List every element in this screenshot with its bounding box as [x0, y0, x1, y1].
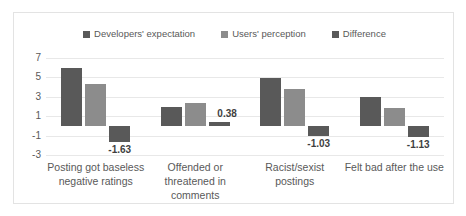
bar — [384, 108, 405, 125]
category-label: Offended or threatened in comments — [146, 161, 246, 203]
y-axis-tick-label: 1 — [35, 111, 41, 121]
bar-group: 0.38 — [146, 58, 246, 155]
legend-label: Users' perception — [232, 29, 306, 39]
category-label: Posting got baseless negative ratings — [46, 161, 146, 189]
legend-swatch-icon — [221, 31, 228, 38]
y-axis-tick-label: 5 — [35, 72, 41, 82]
plot-area: 7531-1-3-1.630.38-1.03-1.13 — [46, 58, 444, 155]
y-axis-tick-label: 7 — [35, 53, 41, 63]
category-label: Racist/sexist postings — [245, 161, 345, 189]
legend-item-developers-expectation: Developers' expectation — [83, 29, 195, 39]
legend-swatch-icon — [83, 31, 90, 38]
category-label: Felt bad after the use — [345, 161, 445, 175]
legend-swatch-icon — [332, 31, 339, 38]
bar-value-label: -1.63 — [108, 145, 131, 155]
legend-label: Developers' expectation — [94, 29, 195, 39]
bar — [360, 97, 381, 126]
gridline: -3 — [46, 155, 444, 156]
chart-frame: Developers' expectation Users' perceptio… — [13, 12, 454, 204]
bar — [408, 126, 429, 137]
bar-value-label: -1.13 — [407, 140, 430, 150]
bar-value-label: -1.03 — [307, 139, 330, 149]
bar-value-label: 0.38 — [217, 109, 236, 119]
bar — [209, 122, 230, 126]
y-axis-tick-label: 3 — [35, 92, 41, 102]
y-axis-tick-label: -1 — [32, 131, 41, 141]
y-axis-tick-label: -3 — [32, 150, 41, 160]
legend-item-users-perception: Users' perception — [221, 29, 306, 39]
legend-item-difference: Difference — [332, 29, 386, 39]
bar — [284, 89, 305, 126]
bar — [308, 126, 329, 136]
legend-label: Difference — [343, 29, 386, 39]
bar — [185, 103, 206, 126]
chart-legend: Developers' expectation Users' perceptio… — [14, 25, 455, 43]
bar-group: -1.03 — [245, 58, 345, 155]
bar-group: -1.13 — [345, 58, 445, 155]
bar — [109, 126, 130, 142]
category-axis: Posting got baseless negative ratingsOff… — [46, 161, 444, 213]
bar — [85, 84, 106, 126]
bar — [161, 107, 182, 126]
bar-group: -1.63 — [46, 58, 146, 155]
bar — [260, 78, 281, 126]
bar — [61, 68, 82, 126]
